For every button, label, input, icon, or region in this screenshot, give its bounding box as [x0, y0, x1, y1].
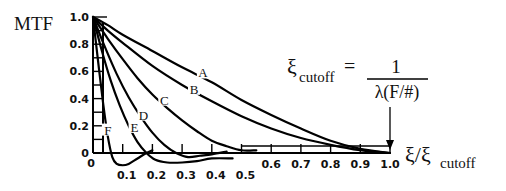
- x-tick-label: 0.5: [236, 169, 256, 182]
- y-tick-label: 0.6: [70, 65, 90, 78]
- annotation-lhs-symbol: ξ: [287, 54, 297, 79]
- x-axis-title: ξ/ξ cutoff: [405, 142, 476, 171]
- curve-c: [93, 17, 256, 151]
- annotation-lhs-sub: cutoff: [299, 69, 335, 85]
- curve-label-d: D: [139, 108, 148, 123]
- x-origin-label: 0: [87, 157, 95, 170]
- curve-label-b: B: [190, 82, 199, 97]
- y-tick-label: 0.4: [70, 93, 90, 106]
- mtf-chart: 0.20.40.60.81.0000.10.20.30.40.50.60.70.…: [0, 0, 506, 191]
- y-tick-label: 0.2: [70, 120, 90, 133]
- x-tick-label: 0.8: [321, 158, 341, 171]
- x-tick-label: 0.4: [206, 169, 226, 182]
- annotation-equals: =: [344, 55, 355, 77]
- annotation-numerator: 1: [391, 56, 401, 77]
- x-tick-label: 1.0: [380, 158, 400, 171]
- x-axis-title-main: ξ/ξ: [405, 142, 431, 167]
- y-tick-label: 1.0: [70, 11, 90, 24]
- x-tick-label: 0.7: [291, 158, 311, 171]
- annotation-arrow-head: [386, 140, 394, 150]
- x-tick-label: 0.6: [261, 158, 281, 171]
- curve-label-a: A: [198, 65, 208, 80]
- curve-label-f: F: [104, 123, 111, 138]
- curve-label-c: C: [160, 93, 169, 108]
- x-axis-title-sub: cutoff: [440, 155, 476, 171]
- x-tick-label: 0.3: [176, 169, 196, 182]
- x-tick-label: 0.1: [117, 169, 137, 182]
- x-tick-label: 0.2: [147, 169, 167, 182]
- x-tick-label: 0.9: [351, 158, 371, 171]
- curves: [93, 17, 390, 165]
- curve-label-e: E: [131, 120, 139, 135]
- y-axis-title: MTF: [14, 13, 53, 34]
- y-tick-label: 0.8: [70, 38, 90, 51]
- cutoff-annotation: ξ cutoff = 1 λ(F/#): [287, 54, 428, 150]
- annotation-denominator: λ(F/#): [375, 82, 420, 103]
